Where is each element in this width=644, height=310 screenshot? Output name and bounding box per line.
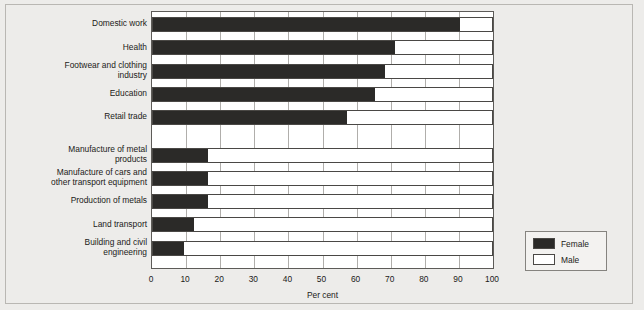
x-tick-label: 90 xyxy=(443,274,473,284)
legend-label-female: Female xyxy=(561,239,589,249)
bar-segment-female xyxy=(153,149,208,162)
bar-track xyxy=(152,17,493,32)
category-label: Retail trade xyxy=(104,111,147,122)
category-label: Land transport xyxy=(93,219,147,230)
bar-segment-female xyxy=(153,88,375,101)
category-label: Domestic work xyxy=(92,18,147,29)
category-label: Building and civil engineering xyxy=(85,237,147,258)
bar-segment-female xyxy=(153,172,208,185)
category-label: Footwear and clothing industry xyxy=(65,60,147,81)
category-label: Manufacture of cars and other transport … xyxy=(51,167,147,188)
bar-segment-female xyxy=(153,18,460,31)
chart-legend: Female Male xyxy=(525,231,607,271)
x-tick-label: 80 xyxy=(409,274,439,284)
bar-track xyxy=(152,171,493,186)
legend-item-female: Female xyxy=(533,238,589,249)
bar-segment-female xyxy=(153,41,395,54)
bar-segment-female xyxy=(153,242,184,255)
x-tick-label: 60 xyxy=(341,274,371,284)
x-axis-title: Per cent xyxy=(151,290,494,300)
x-tick-label: 50 xyxy=(307,274,337,284)
x-tick-label: 100 xyxy=(477,274,507,284)
legend-item-male: Male xyxy=(533,254,579,265)
legend-swatch-male xyxy=(533,254,555,265)
x-tick-label: 20 xyxy=(204,274,234,284)
bar-segment-female xyxy=(153,111,347,124)
bar-track xyxy=(152,241,493,256)
bar-segment-female xyxy=(153,218,194,231)
x-tick-label: 40 xyxy=(272,274,302,284)
bar-track xyxy=(152,40,493,55)
bar-segment-female xyxy=(153,65,385,78)
category-label: Health xyxy=(123,42,147,53)
bar-track xyxy=(152,87,493,102)
x-tick-label: 70 xyxy=(375,274,405,284)
category-label: Education xyxy=(110,88,147,99)
category-label: Production of metals xyxy=(71,195,147,206)
bar-track xyxy=(152,64,493,79)
x-tick-label: 30 xyxy=(238,274,268,284)
legend-label-male: Male xyxy=(561,255,579,265)
category-label: Manufacture of metal products xyxy=(68,144,147,165)
x-tick-label: 0 xyxy=(136,274,166,284)
chart-figure: Domestic workHealthFootwear and clothing… xyxy=(0,0,644,310)
bar-track xyxy=(152,148,493,163)
x-tick-label: 10 xyxy=(170,274,200,284)
bar-segment-female xyxy=(153,195,208,208)
plot-area xyxy=(151,11,494,269)
bar-track xyxy=(152,217,493,232)
bar-track xyxy=(152,110,493,125)
legend-swatch-female xyxy=(533,238,555,249)
bar-track xyxy=(152,194,493,209)
